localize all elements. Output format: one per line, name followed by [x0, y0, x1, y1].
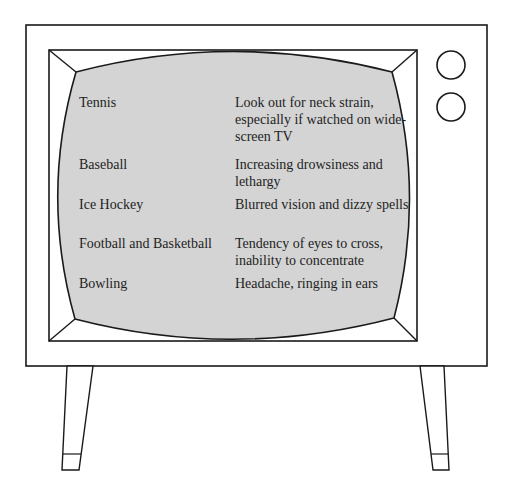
effect-text: Blurred vision and dizzy spells	[235, 196, 410, 213]
sport-label: Tennis	[79, 94, 229, 111]
sport-label: Bowling	[79, 275, 229, 292]
effect-text: Tendency of eyes to cross, inability to …	[235, 235, 410, 269]
knob-icon	[437, 93, 465, 121]
sport-label: Baseball	[79, 156, 229, 173]
sport-label: Ice Hockey	[79, 196, 229, 213]
knob-icon	[437, 51, 465, 79]
effect-text: Increasing drowsiness and lethargy	[235, 156, 410, 190]
sport-label: Football and Basketball	[79, 235, 229, 252]
effect-text: Look out for neck strain, especially if …	[235, 94, 410, 145]
effect-text: Headache, ringing in ears	[235, 275, 410, 292]
